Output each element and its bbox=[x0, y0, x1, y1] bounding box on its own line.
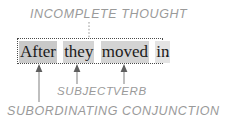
trailing-period: . bbox=[165, 41, 169, 63]
arrow-head-2 bbox=[74, 64, 81, 72]
label-subordinating-conjunction: SUBORDINATING CONJUNCTION bbox=[7, 105, 220, 118]
sentence-text: After they moved in bbox=[19, 41, 170, 63]
arrow-subject bbox=[74, 64, 81, 84]
label-subject: SUBJECT bbox=[57, 86, 114, 98]
arrow-head-3 bbox=[121, 64, 128, 72]
word-they: they bbox=[63, 41, 94, 63]
arrow-head-1 bbox=[36, 64, 43, 72]
grammar-diagram: INCOMPLETE THOUGHT After they moved in .… bbox=[0, 0, 232, 121]
arrow-subordinating-conjunction bbox=[36, 64, 43, 102]
arrow-verb bbox=[121, 64, 128, 84]
word-moved: moved bbox=[101, 41, 149, 63]
label-verb: VERB bbox=[113, 86, 147, 98]
label-incomplete-thought: INCOMPLETE THOUGHT bbox=[30, 8, 187, 21]
word-after: After bbox=[19, 41, 57, 63]
